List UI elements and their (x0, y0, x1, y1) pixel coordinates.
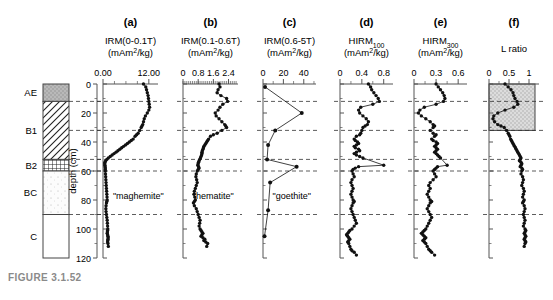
panel-title-f: L ratio (501, 43, 527, 54)
x-tick-label: 0.8 (377, 68, 390, 78)
data-point (370, 88, 373, 91)
data-point (516, 103, 519, 106)
data-point (350, 178, 353, 181)
data-point (369, 85, 372, 88)
data-point (104, 210, 107, 213)
panel-d: (d)HIRM100(mAm2/kg)00.40.8 (334, 16, 397, 258)
data-point (430, 251, 433, 254)
data-point (523, 210, 526, 213)
data-point (104, 178, 107, 181)
data-point (437, 85, 440, 88)
data-point (519, 172, 522, 175)
data-point (357, 165, 360, 168)
data-point (508, 135, 511, 138)
data-point (441, 91, 444, 94)
panel-units-e: (mAm2/kg) (418, 47, 463, 59)
data-point (355, 222, 358, 225)
x-tick-label: 12.00 (138, 68, 161, 78)
x-tick-label: 0 (260, 68, 265, 78)
data-point (417, 111, 420, 114)
horizon-label-ae: AE (24, 87, 37, 98)
data-point (139, 126, 142, 129)
depth-tick-label: 60 (81, 167, 91, 177)
data-point (503, 108, 506, 111)
data-point (104, 172, 107, 175)
data-point (106, 222, 109, 225)
data-point (263, 85, 267, 89)
data-point (439, 156, 442, 159)
data-point (496, 123, 499, 126)
data-point (433, 172, 436, 175)
data-point (354, 146, 357, 149)
horizon-label-b1: B1 (25, 125, 37, 136)
data-point (194, 175, 197, 178)
data-point (350, 195, 353, 198)
data-point (513, 97, 516, 100)
data-point (206, 242, 209, 245)
data-point (205, 245, 208, 248)
data-point (215, 91, 218, 94)
x-tick-label: 0 (486, 68, 491, 78)
data-point (220, 120, 223, 123)
x-tick-label: 0.5 (503, 68, 516, 78)
data-point (354, 219, 357, 222)
data-point (509, 88, 512, 91)
data-point (442, 94, 445, 97)
mineral-annotation-a: "maghemite" (113, 191, 164, 201)
data-point (358, 155, 361, 158)
x-tick-label: 0 (411, 68, 416, 78)
data-point (434, 103, 437, 106)
data-point (219, 94, 222, 97)
data-point (522, 224, 525, 227)
horizon-bc (43, 171, 69, 215)
x-tick-label: 1.6 (207, 68, 220, 78)
data-point (382, 164, 385, 167)
depth-tick-label: 120 (76, 254, 91, 264)
data-point (431, 169, 434, 172)
data-point (148, 106, 151, 109)
panel-letter-e: (e) (434, 16, 448, 28)
x-tick-label: 0 (337, 68, 342, 78)
data-point (428, 181, 431, 184)
data-point (351, 187, 354, 190)
data-point (350, 190, 353, 193)
horizon-label-b2: B2 (25, 160, 37, 171)
data-point (427, 222, 430, 225)
data-point (420, 114, 423, 117)
data-point (492, 114, 495, 117)
panel-letter-a: (a) (124, 16, 138, 28)
data-point (226, 100, 229, 103)
data-point (104, 181, 107, 184)
figure-caption: FIGURE 3.1.52 (8, 272, 82, 283)
data-point (522, 178, 525, 181)
x-tick-label: 40 (299, 68, 309, 78)
data-point (358, 133, 361, 136)
data-point (221, 103, 224, 106)
data-point (350, 210, 353, 213)
data-point (361, 156, 364, 159)
data-point (196, 169, 199, 172)
horizon-b2 (43, 159, 69, 171)
x-tick-label: 20 (278, 68, 288, 78)
data-point (217, 117, 220, 120)
data-point (523, 242, 526, 245)
data-point (428, 120, 431, 123)
data-point (147, 100, 150, 103)
data-point (349, 193, 352, 196)
data-point (107, 245, 110, 248)
depth-tick-label: 0 (86, 80, 91, 90)
data-point (523, 222, 526, 225)
data-point (146, 91, 149, 94)
data-point (512, 94, 515, 97)
data-point (216, 108, 219, 111)
depth-axis: 020406080100120depth (cm) (67, 80, 103, 264)
x-tick-label: 0.6 (452, 68, 465, 78)
data-point (146, 94, 149, 97)
data-point (361, 114, 364, 117)
x-tick-label: 0.3 (430, 68, 443, 78)
panel-letter-c: (c) (283, 16, 297, 28)
data-point (496, 111, 499, 114)
data-point (426, 245, 429, 248)
panel-units-d: (mAm2/kg) (344, 47, 389, 59)
data-point (374, 94, 377, 97)
